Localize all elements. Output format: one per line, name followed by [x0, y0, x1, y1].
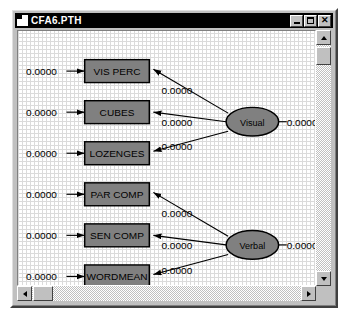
scroll-down-icon [321, 277, 327, 281]
document-icon [17, 15, 28, 26]
variance-paths [279, 122, 287, 245]
scroll-down-button[interactable] [316, 271, 331, 286]
scroll-right-button[interactable] [301, 286, 316, 301]
observed-variable-boxes: VIS PERC CUBES LOZENGES PAR COMP [85, 60, 150, 285]
latent-variable-label: Visual [240, 118, 265, 128]
observed-variable-vis-perc[interactable]: VIS PERC [85, 60, 150, 83]
client-area: VIS PERC CUBES LOZENGES PAR COMP [17, 30, 331, 301]
loading-estimate[interactable]: 0.0000 [161, 85, 192, 96]
scroll-left-button[interactable] [17, 286, 32, 301]
loading-paths-verbal [153, 192, 228, 274]
error-estimate-labels: 0.0000 0.0000 0.0000 0.0000 0.0000 0.000… [26, 66, 57, 282]
horizontal-scrollbar[interactable] [17, 286, 316, 301]
loading-estimate[interactable]: 0.0000 [161, 208, 192, 219]
observed-variable-label: LOZENGES [90, 148, 145, 159]
observed-variable-label: WORDMEAN [86, 271, 147, 282]
vertical-scrollbar[interactable] [316, 30, 331, 286]
scroll-left-icon [23, 291, 27, 297]
observed-variable-label: PAR COMP [90, 189, 144, 200]
error-estimate[interactable]: 0.0000 [26, 271, 57, 282]
path-diagram: VIS PERC CUBES LOZENGES PAR COMP [18, 31, 315, 285]
observed-variable-label: CUBES [100, 107, 135, 118]
window-controls: ✕ [290, 15, 332, 27]
error-paths [66, 71, 84, 276]
mdi-window: CFA6.PTH ✕ [10, 8, 338, 308]
error-estimate[interactable]: 0.0000 [26, 148, 57, 159]
error-estimate[interactable]: 0.0000 [26, 189, 57, 200]
scroll-up-icon [321, 36, 327, 40]
error-estimate[interactable]: 0.0000 [26, 107, 57, 118]
loading-paths-visual [153, 69, 228, 151]
horizontal-scroll-thumb[interactable] [33, 286, 53, 301]
variance-estimate[interactable]: 0.0000 [287, 240, 315, 251]
diagram-canvas[interactable]: VIS PERC CUBES LOZENGES PAR COMP [17, 30, 316, 286]
screenshot-root: CFA6.PTH ✕ [0, 0, 348, 328]
latent-variable-verbal[interactable]: Verbal [226, 231, 279, 260]
scroll-right-icon [307, 291, 311, 297]
loading-estimate[interactable]: 0.0000 [161, 142, 192, 153]
close-icon: ✕ [321, 16, 329, 25]
variance-estimate[interactable]: 0.0000 [287, 117, 315, 128]
observed-variable-par-comp[interactable]: PAR COMP [85, 183, 150, 206]
observed-variable-label: SEN COMP [90, 230, 144, 241]
window-title: CFA6.PTH [31, 15, 290, 26]
loading-estimate[interactable]: 0.0000 [161, 240, 192, 251]
close-button[interactable]: ✕ [318, 15, 331, 27]
observed-variable-lozenges[interactable]: LOZENGES [85, 142, 150, 165]
minimize-icon [294, 22, 300, 24]
horizontal-scroll-track[interactable] [32, 286, 301, 301]
loading-estimate[interactable]: 0.0000 [161, 117, 192, 128]
latent-variable-label: Verbal [240, 241, 266, 251]
vertical-scroll-track[interactable] [316, 45, 331, 271]
window-inner-bevel: CFA6.PTH ✕ [12, 10, 336, 306]
scroll-up-button[interactable] [316, 30, 331, 45]
observed-variable-sen-comp[interactable]: SEN COMP [85, 224, 150, 247]
maximize-icon [307, 17, 314, 24]
observed-variable-cubes[interactable]: CUBES [85, 101, 150, 124]
loading-estimate[interactable]: 0.0000 [161, 265, 192, 276]
title-bar[interactable]: CFA6.PTH ✕ [15, 13, 333, 28]
minimize-button[interactable] [290, 15, 303, 27]
variance-estimate-labels: 0.0000 0.0000 [287, 117, 315, 251]
observed-variable-label: VIS PERC [93, 66, 140, 77]
error-estimate[interactable]: 0.0000 [26, 66, 57, 77]
error-estimate[interactable]: 0.0000 [26, 230, 57, 241]
vertical-scroll-thumb[interactable] [316, 47, 331, 65]
observed-variable-wordmean[interactable]: WORDMEAN [85, 265, 150, 285]
maximize-button[interactable] [304, 15, 317, 27]
latent-variable-visual[interactable]: Visual [226, 107, 279, 136]
latent-variable-ellipses: Visual Verbal [226, 107, 279, 259]
resize-grip[interactable] [316, 286, 331, 301]
